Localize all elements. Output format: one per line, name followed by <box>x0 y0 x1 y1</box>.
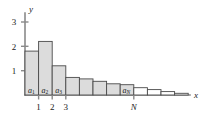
x-tick-label-2: 2 <box>50 102 55 112</box>
y-tick-label-1: 1 <box>12 66 17 76</box>
bar-4 <box>66 77 80 95</box>
bar-9 <box>134 88 148 95</box>
y-tick-label-2: 2 <box>12 42 17 52</box>
x-axis-label: x <box>193 90 198 100</box>
bar-10 <box>147 90 161 95</box>
bar-11 <box>161 92 175 95</box>
bar-6 <box>93 81 107 95</box>
x-tick-label-3: 3 <box>64 102 69 112</box>
bar-label-a2-sub: 2 <box>46 89 49 95</box>
bar-12 <box>175 93 189 95</box>
bar-5 <box>79 79 93 95</box>
bar-label-a1-sub: 1 <box>32 89 35 95</box>
x-tick-label-1: 1 <box>36 102 41 112</box>
y-axis-label: y <box>28 4 33 14</box>
x-tick-label-N: N <box>130 102 138 112</box>
y-tick-label-3: 3 <box>12 17 17 27</box>
bar-label-a3-sub: 3 <box>59 89 62 95</box>
bar-label-aN-sub: N <box>126 89 131 95</box>
series-bar-diagram: 1 2 3 y x 1 2 3 N a1 a2 <box>0 0 208 124</box>
bar-7 <box>107 84 121 95</box>
figure-canvas: 1 2 3 y x 1 2 3 N a1 a2 <box>0 0 208 124</box>
